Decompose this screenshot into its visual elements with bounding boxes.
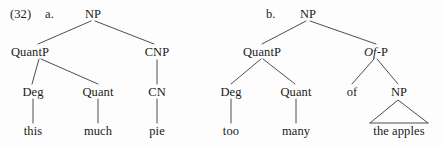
terminal-a-much: much — [84, 125, 112, 138]
node-b-deg: Deg — [220, 86, 241, 99]
edge-b-ofp-np — [377, 59, 398, 84]
node-b-quant: Quant — [280, 86, 311, 99]
subexample-label-a: a. — [45, 8, 54, 21]
edge-b-np-triangle — [370, 100, 428, 123]
terminal-b-many: many — [282, 125, 310, 138]
edge-b-quantp-quant — [263, 59, 295, 84]
syntax-tree-figure: (32) a. NP QuantP CNP Deg Quant CN this … — [0, 0, 442, 148]
node-b-np-embedded: NP — [391, 86, 407, 99]
node-a-cnp: CNP — [145, 46, 170, 59]
edge-b-ofp-of — [352, 59, 374, 84]
node-b-of-head: of — [347, 86, 358, 99]
terminal-b-the-apples: the apples — [373, 125, 424, 138]
edge-a-quantp-quant — [41, 59, 98, 84]
node-a-deg: Deg — [22, 86, 43, 99]
edge-a-np-quantp — [38, 21, 91, 44]
node-a-np-root: NP — [85, 8, 101, 21]
node-b-quantp: QuantP — [243, 46, 281, 59]
node-b-np-root: NP — [300, 8, 316, 21]
node-a-cn: CN — [148, 86, 166, 99]
edge-b-np-ofp — [310, 21, 376, 44]
subexample-label-b: b. — [266, 8, 276, 21]
example-number: (32) — [10, 8, 31, 21]
node-b-ofp: Of-P — [364, 46, 388, 59]
node-b-ofp-suffix: -P — [377, 45, 388, 59]
terminal-a-this: this — [24, 125, 42, 138]
terminal-b-too: too — [223, 125, 239, 138]
node-b-ofp-italic-part: Of — [364, 45, 377, 59]
edge-a-np-cnp — [95, 21, 154, 44]
terminal-a-pie: pie — [149, 125, 165, 138]
node-a-quant: Quant — [82, 86, 113, 99]
edge-a-quantp-deg — [32, 59, 39, 84]
edge-b-quantp-deg — [231, 59, 261, 84]
node-a-quantp: QuantP — [11, 46, 49, 59]
edge-b-np-quantp — [262, 21, 306, 44]
